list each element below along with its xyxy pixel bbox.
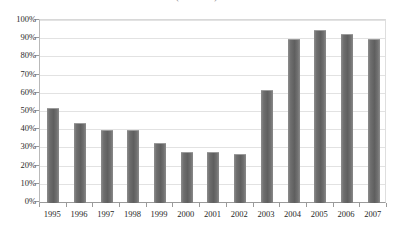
- chart-title-text: (1995-2007): [0, 0, 393, 2]
- x-tick-mark: [146, 203, 147, 207]
- bar-2002[interactable]: [234, 154, 246, 203]
- x-tick-label-2003: 2003: [253, 209, 280, 220]
- y-axis-labels: 100%90%80%70%60%50%40%30%20%10%0%: [0, 19, 36, 203]
- y-tick-label-100: 100%: [2, 15, 36, 24]
- x-axis-labels: 1995199619971998199920002001200220032004…: [39, 209, 386, 225]
- x-tick-mark: [119, 203, 120, 207]
- x-tick-mark: [39, 203, 40, 207]
- bar-slot: [334, 20, 361, 203]
- x-tick-label-2000: 2000: [172, 209, 199, 220]
- x-tick-mark: [333, 203, 334, 207]
- x-tick-label-2006: 2006: [333, 209, 360, 220]
- x-tick-label-1998: 1998: [119, 209, 146, 220]
- bar-1998[interactable]: [127, 130, 139, 203]
- x-tick-mark: [386, 203, 387, 207]
- bar-slot: [67, 20, 94, 203]
- bar-slot: [200, 20, 227, 203]
- y-tick-label-80: 80%: [2, 51, 36, 60]
- bar-1996[interactable]: [74, 123, 86, 203]
- x-tick-label-2004: 2004: [279, 209, 306, 220]
- bar-2000[interactable]: [181, 152, 193, 203]
- bar-2004[interactable]: [288, 39, 300, 203]
- x-tick-label-1999: 1999: [146, 209, 173, 220]
- chart-title-cropped: (1995-2007): [0, 0, 393, 9]
- bar-slot: [40, 20, 67, 203]
- y-tick-label-90: 90%: [2, 33, 36, 42]
- bar-slot: [93, 20, 120, 203]
- bar-1995[interactable]: [47, 108, 59, 203]
- bar-slot: [254, 20, 281, 203]
- x-tick-label-2002: 2002: [226, 209, 253, 220]
- bar-2005[interactable]: [314, 30, 326, 203]
- x-tick-label-1997: 1997: [92, 209, 119, 220]
- bar-1999[interactable]: [154, 143, 166, 203]
- x-tick-label-1996: 1996: [66, 209, 93, 220]
- y-tick-label-70: 70%: [2, 70, 36, 79]
- bar-2007[interactable]: [368, 39, 380, 203]
- y-tick-label-20: 20%: [2, 161, 36, 170]
- bar-2001[interactable]: [207, 152, 219, 203]
- bar-series: [40, 20, 385, 203]
- x-tick-mark: [253, 203, 254, 207]
- y-tick-label-30: 30%: [2, 142, 36, 151]
- x-tick-mark: [92, 203, 93, 207]
- y-tick-label-10: 10%: [2, 179, 36, 188]
- x-tick-label-1995: 1995: [39, 209, 66, 220]
- bar-2003[interactable]: [261, 90, 273, 203]
- x-tick-mark: [199, 203, 200, 207]
- bar-2006[interactable]: [341, 34, 353, 203]
- bar-slot: [147, 20, 174, 203]
- y-tick-label-0: 0%: [2, 197, 36, 206]
- bar-chart: 100%90%80%70%60%50%40%30%20%10%0% 199519…: [0, 9, 393, 233]
- x-tick-mark: [226, 203, 227, 207]
- bar-slot: [173, 20, 200, 203]
- bar-slot: [120, 20, 147, 203]
- x-tick-label-2001: 2001: [199, 209, 226, 220]
- y-tick-label-60: 60%: [2, 88, 36, 97]
- bar-slot: [280, 20, 307, 203]
- x-tick-mark: [306, 203, 307, 207]
- bar-1997[interactable]: [101, 130, 113, 203]
- bar-slot: [227, 20, 254, 203]
- x-tick-mark: [172, 203, 173, 207]
- bar-slot: [360, 20, 387, 203]
- x-tick-mark: [66, 203, 67, 207]
- x-tick-mark: [359, 203, 360, 207]
- x-tick-label-2005: 2005: [306, 209, 333, 220]
- bar-slot: [307, 20, 334, 203]
- y-tick-label-50: 50%: [2, 106, 36, 115]
- y-tick-label-40: 40%: [2, 124, 36, 133]
- x-axis-tickmarks: [39, 203, 386, 207]
- x-tick-label-2007: 2007: [359, 209, 386, 220]
- x-tick-mark: [279, 203, 280, 207]
